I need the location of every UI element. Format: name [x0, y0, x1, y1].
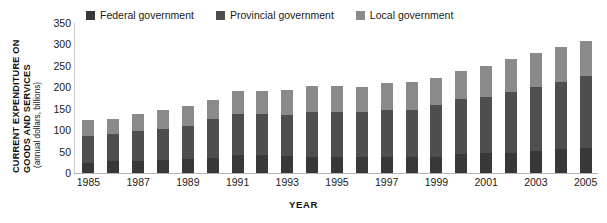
y-axis-tick-label: 50 — [43, 146, 71, 158]
y-axis-tick-label: 0 — [43, 167, 71, 179]
bar-segment — [107, 134, 119, 161]
bar-segment — [82, 163, 94, 173]
bar-column — [306, 86, 318, 173]
y-axis-tick-label: 100 — [43, 124, 71, 136]
bar-segment — [555, 47, 567, 82]
bar-segment — [256, 114, 268, 156]
bar-column — [157, 110, 169, 173]
y-axis-title: CURRENT EXPENDITURE ON GOODS AND SERVICE… — [0, 18, 42, 178]
bar-column — [356, 87, 368, 173]
bar-segment — [107, 161, 119, 173]
bar-segment — [306, 157, 318, 173]
bar-segment — [505, 153, 517, 173]
bar-segment — [281, 90, 293, 115]
bar-segment — [381, 83, 393, 110]
bar-segment — [555, 149, 567, 173]
x-axis-tick-labels: 1985198719891991199319951997199920012003… — [76, 176, 598, 190]
bar-column — [232, 91, 244, 173]
bar-segment — [207, 119, 219, 158]
bar-segment — [256, 91, 268, 114]
bar-column — [381, 83, 393, 173]
bar-segment — [331, 86, 343, 112]
bar-column — [256, 91, 268, 173]
bar-column — [480, 66, 492, 173]
y-axis-title-units: (annual dollars, billions) — [33, 82, 42, 168]
bar-segment — [356, 112, 368, 157]
bar-segment — [306, 112, 318, 157]
bar-segment — [281, 115, 293, 156]
bar-segment — [207, 100, 219, 120]
bar-segment — [232, 114, 244, 155]
bar-column — [331, 86, 343, 173]
y-axis-tick-label: 350 — [43, 17, 71, 29]
bar-column — [505, 59, 517, 173]
bar-segment — [430, 105, 442, 157]
legend-swatch-federal-icon — [86, 11, 95, 20]
x-axis-line — [74, 173, 598, 174]
bar-segment — [281, 156, 293, 173]
bar-segment — [406, 110, 418, 157]
bar-segment — [430, 78, 442, 105]
x-axis-tick-label: 1991 — [226, 176, 249, 188]
legend-label-federal: Federal government — [100, 10, 194, 21]
bar-segment — [207, 158, 219, 173]
y-axis-tick-labels: 350300250200150100500 — [43, 23, 71, 173]
bar-segment — [505, 59, 517, 92]
x-axis-title: YEAR — [0, 199, 607, 210]
y-axis-tick-label: 200 — [43, 81, 71, 93]
bar-segment — [580, 148, 592, 173]
bar-segment — [182, 159, 194, 173]
x-axis-tick-label: 2003 — [524, 176, 547, 188]
bar-segment — [381, 110, 393, 157]
bar-segment — [331, 112, 343, 157]
bar-segment — [406, 157, 418, 173]
plot-area — [76, 23, 598, 173]
bar-segment — [530, 151, 542, 173]
bar-segment — [82, 120, 94, 135]
x-axis-tick-label: 1985 — [77, 176, 100, 188]
x-axis-tick-label: 2001 — [474, 176, 497, 188]
bar-column — [82, 120, 94, 173]
x-axis-tick-label: 1987 — [126, 176, 149, 188]
bar-series-container — [76, 23, 598, 173]
bar-segment — [356, 87, 368, 112]
bar-segment — [455, 99, 467, 153]
bar-column — [182, 106, 194, 173]
bar-segment — [356, 157, 368, 173]
stacked-bar-chart: Federal government Provincial government… — [0, 0, 607, 223]
bar-column — [580, 41, 592, 173]
bar-segment — [82, 136, 94, 163]
legend-label-provincial: Provincial government — [230, 10, 334, 21]
legend-item-local: Local government — [356, 10, 453, 21]
y-axis-tick-label: 300 — [43, 38, 71, 50]
bar-segment — [530, 53, 542, 87]
bar-segment — [157, 129, 169, 160]
bar-segment — [580, 76, 592, 148]
bar-segment — [306, 86, 318, 112]
bar-segment — [580, 41, 592, 75]
bar-segment — [157, 160, 169, 173]
bar-segment — [132, 131, 144, 161]
bar-segment — [480, 66, 492, 97]
x-axis-tick-label: 1989 — [176, 176, 199, 188]
bar-column — [406, 82, 418, 173]
x-axis-tick-label: 1995 — [325, 176, 348, 188]
y-axis-tick-label: 250 — [43, 60, 71, 72]
bar-segment — [430, 157, 442, 173]
y-axis-title-line2: GOODS AND SERVICES — [22, 64, 32, 173]
bar-column — [455, 71, 467, 173]
chart-legend: Federal government Provincial government… — [86, 7, 475, 23]
bar-segment — [455, 71, 467, 99]
bar-segment — [182, 126, 194, 159]
bar-column — [281, 90, 293, 173]
legend-label-local: Local government — [370, 10, 453, 21]
bar-column — [430, 78, 442, 173]
y-axis-line — [74, 23, 75, 174]
x-axis-tick-label: 2005 — [574, 176, 597, 188]
y-axis-title-line1: CURRENT EXPENDITURE ON — [11, 39, 21, 173]
bar-segment — [256, 155, 268, 173]
bar-segment — [555, 82, 567, 150]
bar-segment — [530, 87, 542, 150]
bar-segment — [455, 154, 467, 173]
bar-segment — [232, 155, 244, 173]
